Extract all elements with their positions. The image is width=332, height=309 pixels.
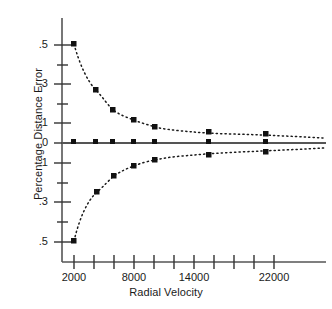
x-tick-label-1: 8000 xyxy=(104,272,164,283)
y-tick-label-6: .5 xyxy=(22,236,48,247)
x-tick-label-2: 14000 xyxy=(164,272,224,283)
y-tick-label-2: .1 xyxy=(22,117,48,128)
plot-area xyxy=(0,0,332,309)
y-tick-label-1: .3 xyxy=(22,78,48,89)
y-tick-label-4: .1 xyxy=(22,157,48,168)
x-tick-label-0: 2000 xyxy=(44,272,104,283)
upper-bound-markers xyxy=(71,41,269,137)
y-tick-label-5: .3 xyxy=(22,196,48,207)
y-tick-label-0: .5 xyxy=(22,39,48,50)
lower-bound-markers xyxy=(71,149,269,244)
upper-bound-curve xyxy=(74,44,324,138)
x-tick-label-3: 22000 xyxy=(244,272,304,283)
plot-svg xyxy=(0,0,332,309)
lower-bound-curve xyxy=(74,148,324,241)
y-tick-label-3: 0 xyxy=(22,137,48,148)
chart-figure: Percentage Distance Error Radial Velocit… xyxy=(0,0,332,309)
